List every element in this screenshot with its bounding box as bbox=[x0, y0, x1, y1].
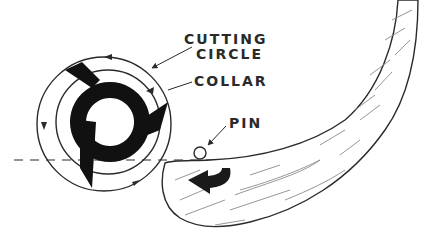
pin bbox=[194, 147, 206, 159]
cutter-blade bbox=[65, 62, 168, 188]
pin-label: PIN bbox=[229, 116, 262, 131]
pin-leader-line bbox=[208, 126, 226, 145]
cutting-circle-label: CUTTING CIRCLE bbox=[184, 32, 267, 62]
rotation-arrow-icon bbox=[132, 180, 140, 186]
collar-label: COLLAR bbox=[194, 74, 268, 89]
collar-leader-line bbox=[168, 82, 192, 90]
cutting-circle-label-line1: CUTTING bbox=[184, 32, 267, 47]
rotation-arrow-icon bbox=[104, 54, 112, 60]
cutting-circle-label-line2: CIRCLE bbox=[184, 47, 267, 62]
rotation-arrow-icon bbox=[41, 122, 47, 130]
